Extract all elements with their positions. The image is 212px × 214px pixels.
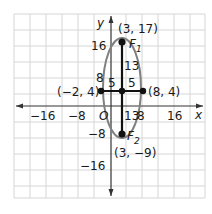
left-half-length: 5	[108, 76, 116, 90]
f2-coord-label: (3, −9)	[114, 146, 156, 160]
right-half-length: 5	[128, 76, 136, 90]
right-point-label: (8, 4)	[148, 85, 180, 99]
lower-length: 13	[124, 109, 139, 123]
y-tick-neg8: −8	[88, 127, 106, 141]
left-point-label: (−2, 4)	[57, 85, 99, 99]
x-axis-label: x	[194, 108, 203, 122]
y-tick-neg16: −16	[80, 159, 105, 173]
f1-label: F1	[129, 37, 142, 54]
f1-coord-label: (3, 17)	[118, 22, 158, 36]
x-tick-16: 16	[167, 109, 182, 123]
center-point	[119, 88, 125, 94]
f2-label: F2	[127, 129, 140, 146]
x-tick-neg8: −8	[68, 109, 86, 123]
focus-f2-point	[118, 130, 125, 137]
y-tick-16: 16	[91, 39, 106, 53]
y-axis-label: y	[96, 16, 105, 30]
origin-label: O	[99, 109, 108, 123]
y-tick-8: 8	[96, 71, 104, 85]
right-point	[140, 88, 146, 94]
x-tick-neg16: −16	[30, 109, 55, 123]
upper-length: 13	[124, 59, 139, 73]
coordinate-diagram: y x O −16 −8 8 16 16 8 −8 −16 (3, 17) F1…	[0, 0, 212, 214]
x-axis	[16, 104, 203, 109]
focus-f1-point	[118, 38, 125, 45]
